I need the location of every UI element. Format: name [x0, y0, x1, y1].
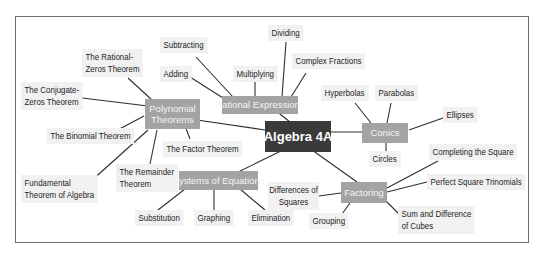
leaf-line2: Theorem [120, 178, 152, 190]
leaf-adding[interactable]: Adding [160, 66, 192, 82]
center-label: Algebra 4A [264, 131, 333, 143]
hub-factoring[interactable]: Factoring [341, 182, 387, 203]
leaf-label: The Factor Theorem [167, 143, 239, 155]
hub-label-line2: Theorems [151, 114, 194, 125]
leaf-dividing[interactable]: Dividing [268, 25, 303, 41]
hub-conics[interactable]: Conics [362, 123, 408, 143]
hub-label: Systems of Equations [173, 175, 265, 187]
hub-polynomial-theorems[interactable]: Polynomial Theorems [145, 99, 200, 129]
leaf-hyperbolas[interactable]: Hyperbolas [321, 85, 368, 101]
leaf-line2: of Cubes [402, 220, 434, 232]
leaf-label: Elimination [252, 212, 291, 224]
leaf-line2: Theorem of Algebra [25, 189, 95, 201]
leaf-label: Hyperbolas [325, 87, 365, 99]
leaf-conjugate-zeros-theorem[interactable]: The Conjugate- Zeros Theorem [21, 82, 83, 110]
leaf-elimination[interactable]: Elimination [248, 210, 294, 226]
leaf-line1: Differences of [269, 184, 318, 196]
leaf-line2: Zeros Theorem [86, 63, 140, 75]
leaf-line2: Zeros Theorem [25, 96, 79, 108]
leaf-label: The Binomial Theorem [51, 130, 131, 142]
hub-label-line1: Polynomial [149, 103, 195, 114]
leaf-label: Graphing [198, 212, 231, 224]
leaf-graphing[interactable]: Graphing [194, 210, 234, 226]
leaf-line2: Squares [279, 196, 309, 208]
hub-rational-expressions[interactable]: Rational Expressions [222, 96, 298, 114]
leaf-label: Subtracting [164, 39, 204, 51]
leaf-differences-of-squares[interactable]: Differences of Squares [268, 182, 319, 210]
leaf-line1: Sum and Difference [402, 208, 472, 220]
leaf-complex-fractions[interactable]: Complex Fractions [292, 53, 365, 69]
leaf-label: Completing the Square [433, 146, 514, 158]
leaf-subtracting[interactable]: Subtracting [160, 37, 207, 53]
leaf-line1: The Remainder [120, 166, 175, 178]
leaf-parabolas[interactable]: Parabolas [375, 85, 418, 101]
leaf-factor-theorem[interactable]: The Factor Theorem [163, 141, 242, 157]
leaf-multiplying[interactable]: Multiplying [233, 66, 277, 82]
hub-systems-of-equations[interactable]: Systems of Equations [179, 171, 258, 190]
leaf-remainder-theorem[interactable]: The Remainder Theorem [116, 164, 178, 192]
leaf-circles[interactable]: Circles [369, 151, 400, 167]
leaf-label: Grouping [313, 215, 346, 227]
leaf-rational-zeros-theorem[interactable]: The Rational- Zeros Theorem [82, 49, 143, 77]
leaf-label: Adding [164, 68, 189, 80]
leaf-line1: Fundamental [25, 177, 71, 189]
leaf-binomial-theorem[interactable]: The Binomial Theorem [47, 128, 134, 144]
center-node-algebra-4a[interactable]: Algebra 4A [265, 121, 331, 152]
leaf-sum-and-difference-of-cubes[interactable]: Sum and Difference of Cubes [398, 206, 475, 234]
leaf-label: Circles [373, 153, 397, 165]
leaf-ellipses[interactable]: Ellipses [443, 107, 477, 123]
leaf-label: Substitution [139, 212, 180, 224]
leaf-substitution[interactable]: Substitution [135, 210, 183, 226]
leaf-completing-the-square[interactable]: Completing the Square [429, 144, 517, 160]
leaf-perfect-square-trinomials[interactable]: Perfect Square Trinomials [427, 174, 525, 190]
leaf-label: Complex Fractions [296, 55, 362, 67]
leaf-label: Parabolas [379, 87, 415, 99]
leaf-label: Perfect Square Trinomials [431, 176, 522, 188]
leaf-line1: The Conjugate- [25, 84, 80, 96]
leaf-fundamental-theorem-of-algebra[interactable]: Fundamental Theorem of Algebra [21, 175, 98, 203]
leaf-grouping[interactable]: Grouping [309, 213, 349, 229]
hub-label: Factoring [344, 187, 384, 199]
leaf-label: Dividing [272, 27, 300, 39]
leaf-label: Ellipses [447, 109, 474, 121]
hub-label: Rational Expressions [215, 99, 304, 111]
hub-label: Conics [370, 127, 399, 139]
leaf-line1: The Rational- [86, 51, 134, 63]
leaf-label: Multiplying [237, 68, 274, 80]
